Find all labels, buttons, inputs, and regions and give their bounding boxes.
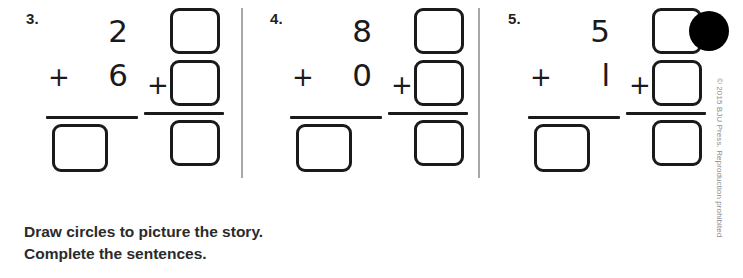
plus-sign-icon: + — [530, 64, 552, 90]
problem-number: 4. — [270, 10, 283, 27]
box-sum-rule — [626, 112, 706, 115]
addend-top: 5 — [590, 16, 610, 47]
black-dot-icon — [689, 11, 729, 51]
numeric-column: 8 + 0 — [282, 12, 386, 104]
answer-box[interactable] — [296, 124, 352, 172]
instruction-line-1: Draw circles to picture the story. — [24, 221, 263, 243]
box-addend-top[interactable] — [170, 8, 220, 54]
column-divider — [478, 8, 480, 178]
problem-number: 5. — [508, 10, 521, 27]
problem-3: 3. 2 + 6 + — [4, 0, 236, 190]
addend-bottom: 6 — [108, 60, 128, 91]
plus-sign-icon: + — [391, 72, 413, 98]
sum-rule — [46, 116, 138, 119]
copyright-notice: © 2015 BJU Press. Reproduction prohibite… — [715, 78, 724, 238]
answer-box[interactable] — [534, 124, 590, 172]
addend-top-row: 2 — [38, 12, 142, 58]
box-sum-rule — [144, 112, 224, 115]
answer-box[interactable] — [52, 124, 108, 172]
column-divider — [241, 8, 243, 178]
box-sum[interactable] — [414, 120, 464, 166]
box-addend-bottom[interactable] — [170, 60, 220, 106]
problem-number: 3. — [26, 10, 39, 27]
box-addend-top[interactable] — [414, 8, 464, 54]
addend-bottom: l — [601, 60, 610, 91]
numeric-column: 2 + 6 — [38, 12, 142, 104]
box-sum[interactable] — [652, 120, 702, 166]
addend-top-row: 8 — [282, 12, 386, 58]
instruction-line-2: Complete the sentences. — [24, 243, 263, 265]
box-addend-bottom[interactable] — [414, 60, 464, 106]
addend-top-row: 5 — [520, 12, 624, 58]
box-sum[interactable] — [170, 120, 220, 166]
addend-bottom-row: + 6 — [38, 58, 142, 104]
plus-sign-icon: + — [292, 64, 314, 90]
box-sum-rule — [388, 112, 468, 115]
addend-top: 2 — [108, 16, 128, 47]
problem-4: 4. 8 + 0 + — [248, 0, 480, 190]
sum-rule — [290, 116, 382, 119]
addend-bottom: 0 — [352, 60, 372, 91]
sum-rule — [528, 116, 620, 119]
problem-5: 5. 5 + l + — [486, 0, 718, 190]
plus-sign-icon: + — [629, 72, 651, 98]
box-addend-bottom[interactable] — [652, 60, 702, 106]
plus-sign-icon: + — [48, 64, 70, 90]
numeric-column: 5 + l — [520, 12, 624, 104]
addend-bottom-row: + 0 — [282, 58, 386, 104]
worksheet-page: 3. 2 + 6 + 4. 8 + — [0, 0, 743, 278]
addend-top: 8 — [352, 16, 372, 47]
plus-sign-icon: + — [147, 72, 169, 98]
instructions: Draw circles to picture the story. Compl… — [24, 221, 263, 265]
addend-bottom-row: + l — [520, 58, 624, 104]
